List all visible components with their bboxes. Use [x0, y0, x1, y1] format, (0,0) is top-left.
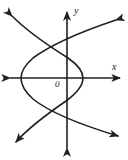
x-axis-label: x [112, 62, 116, 72]
curve-opening-left [12, 16, 83, 142]
y-axis-label: y [74, 6, 78, 16]
origin-label: 0 [55, 80, 60, 89]
graph-figure: y x 0 [0, 0, 128, 160]
coordinate-plane-svg [0, 0, 128, 160]
